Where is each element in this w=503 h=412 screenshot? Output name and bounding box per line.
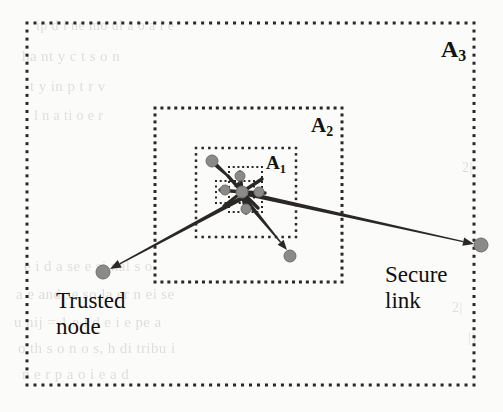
region-label-subscript: 1 [280,162,286,176]
region-label-subscript: 3 [458,47,466,64]
secure-link-right-node[interactable] [474,238,488,252]
arrow-to-trusted-node [110,194,247,269]
arrow-to-secure-link-head [462,237,474,245]
callout-trusted-line1: Trusted [56,288,125,314]
region-label-A3: A3 [441,36,466,65]
hub-node-west[interactable] [220,185,230,195]
callout-secure-link: Securelink [385,262,448,314]
node-lower-right[interactable] [284,250,296,262]
region-label-letter: A [311,113,326,137]
figure-canvas: ip d i ne mo ul a o a i eha nt y c t s o… [0,0,503,412]
callout-secure-line2: link [385,288,448,314]
arrow-to-trusted-node-head [110,260,122,269]
diagram-svg [0,0,503,412]
region-label-A1: A1 [266,152,286,177]
callout-secure-line1: Secure [385,262,448,288]
callout-trusted-node: Trustednode [56,288,125,340]
hub-node-down[interactable] [241,204,251,214]
callout-trusted-line2: node [56,314,125,340]
region-label-A2: A2 [311,113,333,140]
hub-node-center[interactable] [236,186,248,198]
region-label-letter: A [266,152,280,173]
hub-node-up[interactable] [235,171,245,181]
region-label-subscript: 2 [326,124,333,139]
hub-node-east[interactable] [254,187,264,197]
trusted-node-left[interactable] [96,265,110,279]
node-upper-left[interactable] [206,155,218,167]
region-label-letter: A [441,36,458,62]
